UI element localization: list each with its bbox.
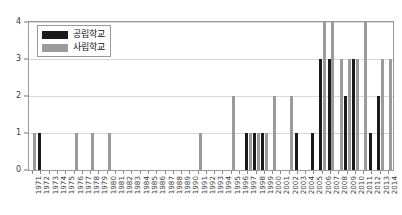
x-tick-label: 2010 xyxy=(358,176,365,194)
bar xyxy=(364,22,367,170)
bar xyxy=(38,133,41,170)
chart-legend: 공립학교 사립학교 xyxy=(37,25,111,57)
x-tick-mark xyxy=(272,171,273,174)
bar xyxy=(369,133,372,170)
x-tick-label: 1991 xyxy=(201,176,208,194)
bar xyxy=(331,22,334,170)
x-tick-label: 1972 xyxy=(43,176,50,194)
legend-label-private: 사립학교 xyxy=(73,43,105,52)
gridline-3 xyxy=(29,59,393,60)
x-tick-mark xyxy=(214,171,215,174)
x-tick-mark xyxy=(123,171,124,174)
x-tick-mark xyxy=(198,171,199,174)
x-tick-label: 1983 xyxy=(134,176,141,194)
x-tick-mark xyxy=(98,171,99,174)
x-tick-mark xyxy=(239,171,240,174)
x-tick-label: 1992 xyxy=(209,176,216,194)
x-tick-mark xyxy=(181,171,182,174)
x-tick-mark xyxy=(74,171,75,174)
gray-swatch-icon xyxy=(42,44,68,52)
x-tick-mark xyxy=(313,171,314,174)
bar xyxy=(261,133,264,170)
bar xyxy=(352,59,355,170)
x-tick-mark xyxy=(107,171,108,174)
x-tick-label: 2009 xyxy=(350,176,357,194)
bar xyxy=(75,133,78,170)
x-tick-label: 1986 xyxy=(159,176,166,194)
bar xyxy=(91,133,94,170)
x-tick-label: 1984 xyxy=(143,176,150,194)
x-tick-mark xyxy=(380,171,381,174)
x-tick-label: 1976 xyxy=(77,176,84,194)
x-tick-label: 2012 xyxy=(374,176,381,194)
x-tick-label: 1997 xyxy=(250,176,257,194)
x-tick-mark xyxy=(297,171,298,174)
bar xyxy=(381,59,384,170)
x-tick-label: 1981 xyxy=(118,176,125,194)
x-tick-mark xyxy=(148,171,149,174)
bar xyxy=(245,133,248,170)
x-tick-label: 1995 xyxy=(234,176,241,194)
bar xyxy=(356,59,359,170)
y-tick-label: 2 xyxy=(16,92,21,100)
x-tick-mark xyxy=(338,171,339,174)
bar xyxy=(257,133,260,170)
x-tick-mark xyxy=(305,171,306,174)
bar xyxy=(108,133,111,170)
x-tick-label: 2001 xyxy=(283,176,290,194)
x-tick-mark xyxy=(82,171,83,174)
x-tick-label: 1973 xyxy=(52,176,59,194)
x-tick-mark xyxy=(140,171,141,174)
x-tick-mark xyxy=(322,171,323,174)
x-tick-mark xyxy=(388,171,389,174)
x-tick-label: 1987 xyxy=(168,176,175,194)
y-tick-label: 3 xyxy=(16,55,21,63)
x-tick-mark xyxy=(189,171,190,174)
x-tick-label: 2013 xyxy=(383,176,390,194)
bar xyxy=(319,59,322,170)
bar xyxy=(199,133,202,170)
y-tick-label: 1 xyxy=(16,129,21,137)
x-tick-mark xyxy=(206,171,207,174)
x-tick-mark xyxy=(115,171,116,174)
black-swatch-icon xyxy=(42,31,68,39)
x-tick-mark xyxy=(371,171,372,174)
x-tick-label: 1979 xyxy=(101,176,108,194)
bar xyxy=(328,59,331,170)
x-tick-label: 1999 xyxy=(267,176,274,194)
bar xyxy=(311,133,314,170)
bar-chart: 01234 1971197219731974197519761977197819… xyxy=(0,0,402,215)
bar xyxy=(253,133,256,170)
x-tick-mark xyxy=(256,171,257,174)
x-tick-label: 2006 xyxy=(325,176,332,194)
x-axis: 1971197219731974197519761977197819791980… xyxy=(28,171,394,215)
bar xyxy=(377,96,380,170)
x-tick-label: 2005 xyxy=(316,176,323,194)
x-tick-mark xyxy=(231,171,232,174)
x-tick-label: 2003 xyxy=(300,176,307,194)
y-tick-label: 4 xyxy=(16,18,21,26)
bar xyxy=(344,96,347,170)
x-tick-mark xyxy=(165,171,166,174)
bar xyxy=(323,22,326,170)
x-tick-label: 1994 xyxy=(225,176,232,194)
gridline-2 xyxy=(29,96,393,97)
bar xyxy=(33,133,36,170)
legend-entry-public: 공립학교 xyxy=(42,29,105,40)
bar xyxy=(249,133,252,170)
legend-entry-private: 사립학교 xyxy=(42,42,105,53)
x-tick-mark xyxy=(363,171,364,174)
x-tick-mark xyxy=(264,171,265,174)
bar xyxy=(290,96,293,170)
x-tick-mark xyxy=(222,171,223,174)
bar xyxy=(273,96,276,170)
x-tick-label: 1977 xyxy=(85,176,92,194)
x-tick-mark xyxy=(330,171,331,174)
x-tick-label: 1998 xyxy=(259,176,266,194)
x-tick-label: 1980 xyxy=(110,176,117,194)
x-tick-mark xyxy=(156,171,157,174)
x-tick-mark xyxy=(49,171,50,174)
x-tick-mark xyxy=(90,171,91,174)
x-tick-label: 1990 xyxy=(192,176,199,194)
bar xyxy=(340,59,343,170)
